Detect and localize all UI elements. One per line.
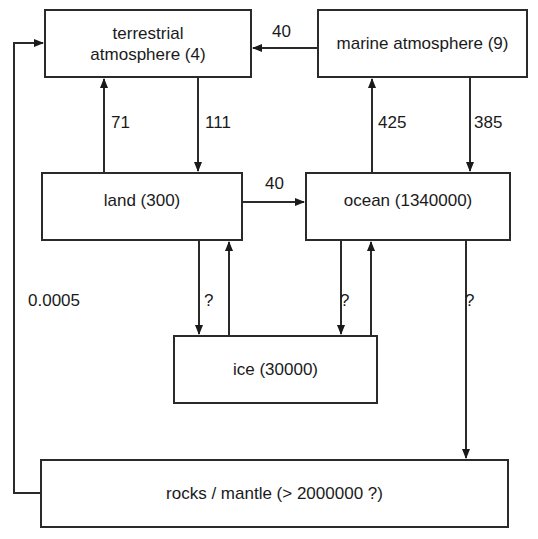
flow-label-ocean-ice: ? [340,291,349,311]
ocean-box: ocean (1340000) [305,172,511,241]
land-box: land (300) [41,172,243,241]
flow-label-land-ice: ? [204,291,213,311]
flow-label-ocean-to-marine: 425 [378,113,406,133]
flow-label-terrestrial-to-land: 111 [205,113,231,133]
flow-label-marine-to-ocean: 385 [474,113,502,133]
flow-label-ocean-to-rocks: ? [465,291,474,311]
rocks-mantle-box: rocks / mantle (> 2000000 ?) [40,459,509,528]
marine-atmosphere-box: marine atmosphere (9) [317,9,528,78]
rocks-mantle-label: rocks / mantle (> 2000000 ?) [166,483,383,504]
ice-label: ice (30000) [233,359,318,380]
flow-label-land-to-ocean: 40 [265,174,284,194]
terrestrial-atmosphere-line2: atmosphere (4) [90,44,205,65]
terrestrial-atmosphere-box: terrestrial atmosphere (4) [44,9,252,78]
marine-atmosphere-label: marine atmosphere (9) [337,33,509,54]
ocean-label: ocean (1340000) [344,190,473,211]
terrestrial-atmosphere-line1: terrestrial [113,23,184,44]
land-label: land (300) [104,190,181,211]
flow-label-rocks-to-terrestrial: 0.0005 [28,291,80,311]
flow-label-land-to-terrestrial: 71 [111,113,130,133]
flow-label-marine-to-terrestrial: 40 [272,22,291,42]
arrow-rocks-to-terrestrial [14,43,43,493]
ice-box: ice (30000) [173,335,378,404]
